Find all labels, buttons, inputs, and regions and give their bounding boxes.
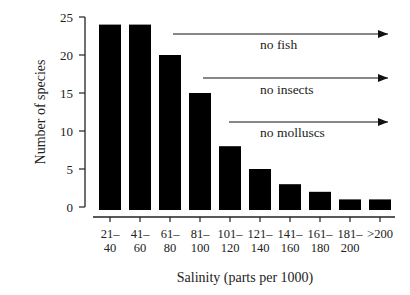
bar-chart: 0510152025 21–4041–6061–8081–100101–1201…: [0, 0, 410, 295]
x-tick-label: 41–60: [131, 227, 151, 255]
bar-101-120: [219, 146, 241, 210]
x-tick-label: 121–140: [248, 227, 274, 255]
bar-81-100: [189, 93, 211, 210]
bar-161-180: [309, 192, 331, 210]
bar-121-140: [249, 169, 271, 210]
annotation-label: no fish: [260, 37, 297, 52]
bar-61-80: [159, 55, 181, 210]
y-tick-label: 15: [60, 86, 73, 101]
annotation-label: no insects: [260, 82, 314, 97]
y-tick-label: 0: [67, 200, 74, 215]
x-tick-label: >200: [367, 227, 393, 241]
x-tick-label: 161–180: [308, 227, 334, 255]
y-tick-label: 10: [60, 124, 73, 139]
x-axis-title: Salinity (parts per 1000): [177, 270, 314, 286]
y-tick-label: 20: [60, 48, 73, 63]
x-axis: 21–4041–6061–8081–100101–120121–140141–1…: [93, 217, 395, 255]
y-axis: 0510152025: [60, 10, 85, 215]
bar-141-160: [279, 184, 301, 210]
bar-21-40: [99, 25, 121, 210]
annotation-label: no molluscs: [260, 125, 325, 140]
x-tick-label: 21–40: [101, 227, 121, 255]
y-tick-label: 25: [60, 10, 73, 25]
bars: [99, 25, 391, 210]
bar--200: [369, 199, 391, 210]
x-tick-label: 181–200: [338, 227, 364, 255]
x-tick-label: 61–80: [161, 227, 181, 255]
x-tick-label: 81–100: [191, 227, 211, 255]
y-tick-label: 5: [67, 162, 74, 177]
bar-181-200: [339, 199, 361, 210]
bar-41-60: [129, 25, 151, 210]
x-tick-label: 141–160: [278, 227, 304, 255]
y-axis-title: Number of species: [33, 60, 48, 165]
x-tick-label: 101–120: [218, 227, 244, 255]
